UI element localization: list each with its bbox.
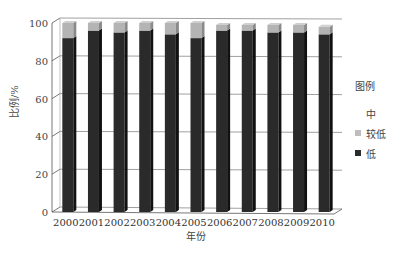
stacked-bar-chart: 0204060801002000200120022003200420052006… xyxy=(0,0,399,255)
svg-text:2008: 2008 xyxy=(258,217,283,228)
legend-swatch-medium xyxy=(355,110,361,116)
y-axis-label: 比例/% xyxy=(6,85,21,118)
svg-text:2001: 2001 xyxy=(79,217,104,228)
x-axis-label: 年份 xyxy=(186,228,206,243)
svg-text:60: 60 xyxy=(35,94,48,105)
legend-item-medium: 中 xyxy=(355,103,386,123)
legend-item-lower: 较低 xyxy=(355,123,386,143)
svg-text:2003: 2003 xyxy=(130,217,155,228)
legend-swatch-low xyxy=(355,150,361,156)
svg-text:80: 80 xyxy=(35,56,48,67)
svg-text:2004: 2004 xyxy=(156,217,181,228)
svg-text:0: 0 xyxy=(42,207,48,218)
legend-item-low: 低 xyxy=(355,143,386,163)
svg-text:2006: 2006 xyxy=(207,217,232,228)
svg-text:2000: 2000 xyxy=(53,217,78,228)
svg-text:2010: 2010 xyxy=(309,217,334,228)
svg-text:100: 100 xyxy=(29,18,48,29)
legend-title: 图例 xyxy=(355,78,386,93)
svg-text:20: 20 xyxy=(35,169,48,180)
svg-text:2009: 2009 xyxy=(284,217,309,228)
legend: 图例 中 较低 低 xyxy=(355,78,386,163)
legend-swatch-lower xyxy=(355,130,361,136)
svg-text:2002: 2002 xyxy=(104,217,129,228)
svg-text:2005: 2005 xyxy=(181,217,206,228)
svg-text:2007: 2007 xyxy=(233,217,258,228)
svg-text:40: 40 xyxy=(35,131,48,142)
